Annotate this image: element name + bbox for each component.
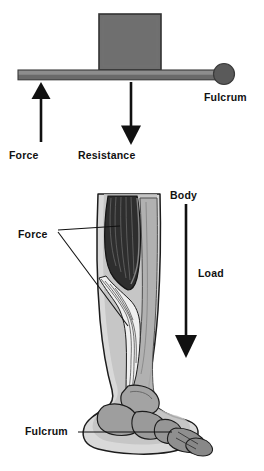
lever-force-label: Force [9,150,39,161]
fulcrum-pivot-icon [214,64,235,85]
lever-fulcrum-label: Fulcrum [204,92,247,103]
resistance-arrow-down-icon [121,82,141,145]
leg-load-label: Load [198,268,224,279]
lever-beam [18,70,216,80]
resistance-block [99,14,161,70]
leg-force-label: Force [18,229,48,240]
load-arrow-down-icon [175,204,197,358]
force-arrow-up-icon [32,82,51,142]
leg-body-label: Body [170,190,197,201]
lever-resistance-label: Resistance [78,150,135,161]
leg-fulcrum-label: Fulcrum [25,426,68,437]
figure-canvas: Force Resistance Fulcrum [0,0,264,471]
